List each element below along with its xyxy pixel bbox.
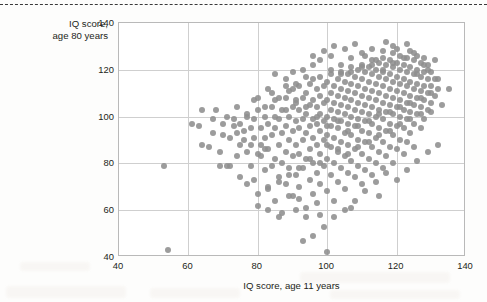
scatter-point [352,198,358,204]
scatter-point [342,186,348,192]
scatter-point [369,46,375,52]
scatter-point [324,188,330,194]
scatter-point [407,79,413,85]
scatter-point [414,81,420,87]
scatter-point [348,81,354,87]
gridline-vertical-60 [188,23,189,255]
scatter-point [279,130,285,136]
scatter-point [383,93,389,99]
scatter-point [328,90,334,96]
scatter-point [324,132,330,138]
scatter-point [224,114,230,120]
x-tick-140: 140 [445,260,485,271]
scatter-point [335,125,341,131]
scatter-point [283,95,289,101]
scatter-point [296,151,302,157]
scatter-point [310,53,316,59]
scatter-point [272,198,278,204]
scatter-point [362,69,368,75]
scatter-point [324,156,330,162]
scatter-point [359,128,365,134]
scatter-point [314,104,320,110]
scatter-point [338,86,344,92]
scatter-point [404,41,410,47]
scatter-point [359,181,365,187]
scatter-point [359,93,365,99]
scatter-point [366,130,372,136]
scatter-point [380,83,386,89]
scatter-point [380,48,386,54]
scatter-point [401,55,407,61]
scatter-point [397,97,403,103]
scatter-point [335,76,341,82]
scatter-point [331,43,337,49]
scatter-point [362,188,368,194]
scatter-point [345,88,351,94]
scatter-point [355,83,361,89]
scatter-point [387,86,393,92]
x-tick-40: 40 [98,260,138,271]
x-tick-80: 80 [237,260,277,271]
scatter-point [290,153,296,159]
scatter-point [376,193,382,199]
scatter-point [359,109,365,115]
scatter-point [342,95,348,101]
scatter-point [404,69,410,75]
scatter-point [418,104,424,110]
scatter-point [335,146,341,152]
scatter-point [380,116,386,122]
scatter-point [352,174,358,180]
x-tick-120: 120 [376,260,416,271]
scatter-point [394,46,400,52]
scatter-point [366,79,372,85]
scatter-point [376,132,382,138]
scatter-point [255,191,261,197]
scatter-point [314,200,320,206]
scatter-point [272,71,278,77]
scatter-point [321,48,327,54]
scatter-point [428,100,434,106]
scatter-point [296,196,302,202]
scatter-point [227,135,233,141]
scatter-point [380,67,386,73]
scatter-point [310,233,316,239]
scatter-point [324,114,330,120]
scatter-point [352,90,358,96]
scatter-point [366,156,372,162]
scatter-point [220,132,226,138]
scatter-point [237,121,243,127]
scatter-point [255,107,261,113]
scatter-point [397,114,403,120]
scatter-point [411,121,417,127]
scatter-point [407,93,413,99]
scatter-point [251,135,257,141]
scatter-point [286,165,292,171]
scatter-point [324,79,330,85]
scatter-point [276,142,282,148]
page-bleed-artifact [330,290,460,299]
scatter-point [428,83,434,89]
scatter-point [286,114,292,120]
scatter-point [355,137,361,143]
scatter-point [317,128,323,134]
scatter-point [303,104,309,110]
scatter-point [394,88,400,94]
scatter-point [161,163,167,169]
scatter-point [269,163,275,169]
scatter-point [411,144,417,150]
scatter-point [269,132,275,138]
scatter-point [359,151,365,157]
scatter-point [283,83,289,89]
scatter-point [376,149,382,155]
scatter-point [265,184,271,190]
scatter-point [248,125,254,131]
scatter-point [397,121,403,127]
scatter-point [310,135,316,141]
scatter-point [310,62,316,68]
scatter-point [248,142,254,148]
gridline-vertical-80 [258,23,259,255]
scatter-point [244,181,250,187]
scatter-point [428,109,434,115]
scatter-point [345,104,351,110]
scatter-point [324,142,330,148]
